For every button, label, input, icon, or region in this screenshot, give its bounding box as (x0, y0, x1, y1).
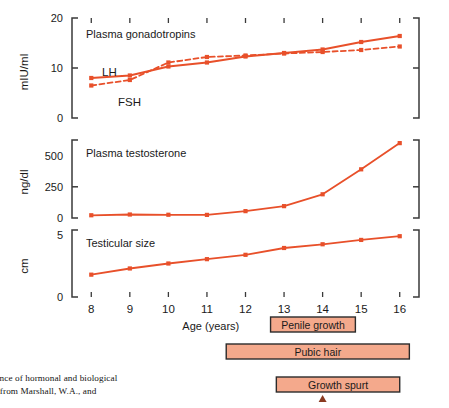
xtick-label: 8 (88, 303, 94, 315)
panel-1-unit-label: mIU/ml (18, 54, 30, 90)
panel-2-data-point (398, 141, 402, 145)
panel-1-data-point (205, 55, 209, 59)
panel-2-ytick-label: 250 (45, 181, 63, 193)
panel-2-data-point (205, 213, 209, 217)
panel-2-data-point (128, 212, 132, 216)
panel-3-data-point (321, 242, 325, 246)
panel-1-data-point (128, 73, 132, 77)
xtick-label: 14 (316, 303, 329, 315)
panel-1-data-point (282, 51, 286, 55)
panel-2-unit-label: ng/dl (18, 170, 30, 195)
timeline-bar-label: Pubic hair (294, 346, 341, 358)
xtick-label: 11 (201, 303, 213, 315)
xtick-label: 10 (162, 303, 175, 315)
xtick-label: 13 (278, 303, 291, 315)
panel-3-title: Testicular size (86, 237, 155, 249)
panel-1-ytick-label: 20 (51, 12, 63, 24)
x-axis-label: Age (years) (182, 320, 239, 332)
panel-3-left-axis (72, 230, 78, 297)
panel-1-data-point (128, 78, 132, 82)
panel-1-ytick-label: 0 (57, 112, 63, 124)
panel-1-data-point (321, 50, 325, 54)
panel-2-right-axis (413, 140, 419, 218)
panel-3-ytick-label: 0 (57, 291, 63, 303)
panel-1-data-point (398, 44, 402, 48)
timeline-bar-label: Penile growth (281, 319, 345, 331)
panel-1-data-point (359, 40, 363, 44)
panel-3-data-point (398, 234, 402, 238)
xtick-label: 9 (127, 303, 133, 315)
panel-1-data-point (359, 48, 363, 52)
panel-2-title: Plasma testosterone (86, 147, 186, 159)
panel-3-data-point (359, 238, 363, 242)
timeline-bar-label: Growth spurt (308, 379, 368, 391)
xtick-label: 16 (393, 303, 406, 315)
series-label-fsh: FSH (118, 96, 141, 108)
caption-line-1: quence of hormonal and biological (0, 373, 117, 383)
panel-1-data-point (89, 83, 93, 87)
panel-3-data-point (166, 261, 170, 265)
panel-3-right-axis (413, 230, 419, 297)
xtick-label: 12 (239, 303, 252, 315)
panel-2-data-point (89, 213, 93, 217)
panel-1-series-fsh (91, 47, 399, 86)
panel-1-data-point (166, 64, 170, 68)
panel-2-data-point (243, 209, 247, 213)
panel-1-data-point (89, 76, 93, 80)
panel-1-data-point (205, 60, 209, 64)
panel-1-data-point (166, 60, 170, 64)
panel-2-ytick-label: 500 (45, 150, 63, 162)
panel-2-ytick-label: 0 (57, 212, 63, 224)
panel-3-data-point (89, 273, 93, 277)
panel-3-data-point (205, 257, 209, 261)
panel-1-data-point (398, 34, 402, 38)
panel-2-data-point (321, 192, 325, 196)
panel-2-data-point (359, 167, 363, 171)
panel-3-unit-label: cm (18, 258, 30, 273)
panel-3-data-point (128, 266, 132, 270)
panel-3-data-point (243, 253, 247, 257)
panel-1-title: Plasma gonadotropins (86, 28, 196, 40)
series-label-lh: LH (102, 66, 117, 78)
peak-velocity-arrow-icon (319, 395, 327, 402)
panel-1-ytick-label: 10 (51, 62, 63, 74)
panel-3-ytick-label: 5 (57, 229, 63, 241)
panel-2-data-point (166, 213, 170, 217)
panel-2-data-point (282, 204, 286, 208)
puberty-sequence-figure: 01020mIU/mlPlasma gonadotropins0250500ng… (0, 0, 449, 408)
panel-2-left-axis (72, 140, 78, 218)
caption-line-2: wn from Marshall, W.A., and (0, 386, 96, 396)
panel-3-data-point (282, 246, 286, 250)
panel-1-data-point (243, 53, 247, 57)
xtick-label: 15 (355, 303, 368, 315)
